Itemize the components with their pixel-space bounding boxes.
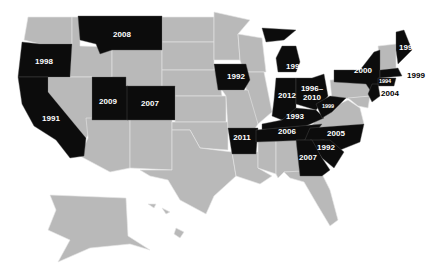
label-or: 1998 bbox=[35, 57, 53, 66]
state-sd[interactable] bbox=[162, 42, 214, 70]
label-mt: 2008 bbox=[113, 30, 131, 39]
label-ct: 1994 bbox=[379, 78, 391, 84]
label-tn: 2006 bbox=[278, 127, 296, 136]
us-map bbox=[0, 0, 438, 272]
label-co: 2007 bbox=[141, 99, 159, 108]
label-oh: 1996–2010 bbox=[300, 84, 324, 102]
label-ar: 2011 bbox=[233, 133, 250, 142]
label-ma: 1999 bbox=[407, 71, 425, 80]
label-ut: 2009 bbox=[99, 97, 117, 106]
label-ca: 1991 bbox=[42, 114, 60, 123]
label-wv: 1999 bbox=[322, 103, 334, 109]
label-ny: 2000 bbox=[354, 66, 372, 75]
state-wa[interactable] bbox=[24, 17, 72, 44]
state-ks[interactable] bbox=[175, 96, 226, 122]
label-nj: 2004 bbox=[381, 89, 399, 98]
state-ak[interactable] bbox=[48, 195, 150, 262]
label-ga: 2007 bbox=[299, 153, 317, 162]
label-ky: 1993 bbox=[286, 112, 304, 121]
label-sc: 1992 bbox=[317, 143, 335, 152]
label-nc: 2005 bbox=[327, 129, 345, 138]
state-ma[interactable] bbox=[380, 68, 402, 78]
state-nm[interactable] bbox=[130, 118, 172, 170]
state-ms[interactable] bbox=[258, 140, 276, 174]
label-me: 1999 bbox=[399, 43, 417, 52]
label-in: 2012 bbox=[278, 91, 296, 100]
state-fl[interactable] bbox=[284, 170, 338, 226]
state-az[interactable] bbox=[80, 118, 130, 172]
label-ia: 1992 bbox=[227, 72, 245, 81]
state-hi[interactable] bbox=[148, 204, 184, 238]
state-nd[interactable] bbox=[162, 17, 214, 42]
label-mi: 1995 bbox=[286, 62, 304, 71]
state-vt-nh[interactable] bbox=[378, 44, 396, 70]
